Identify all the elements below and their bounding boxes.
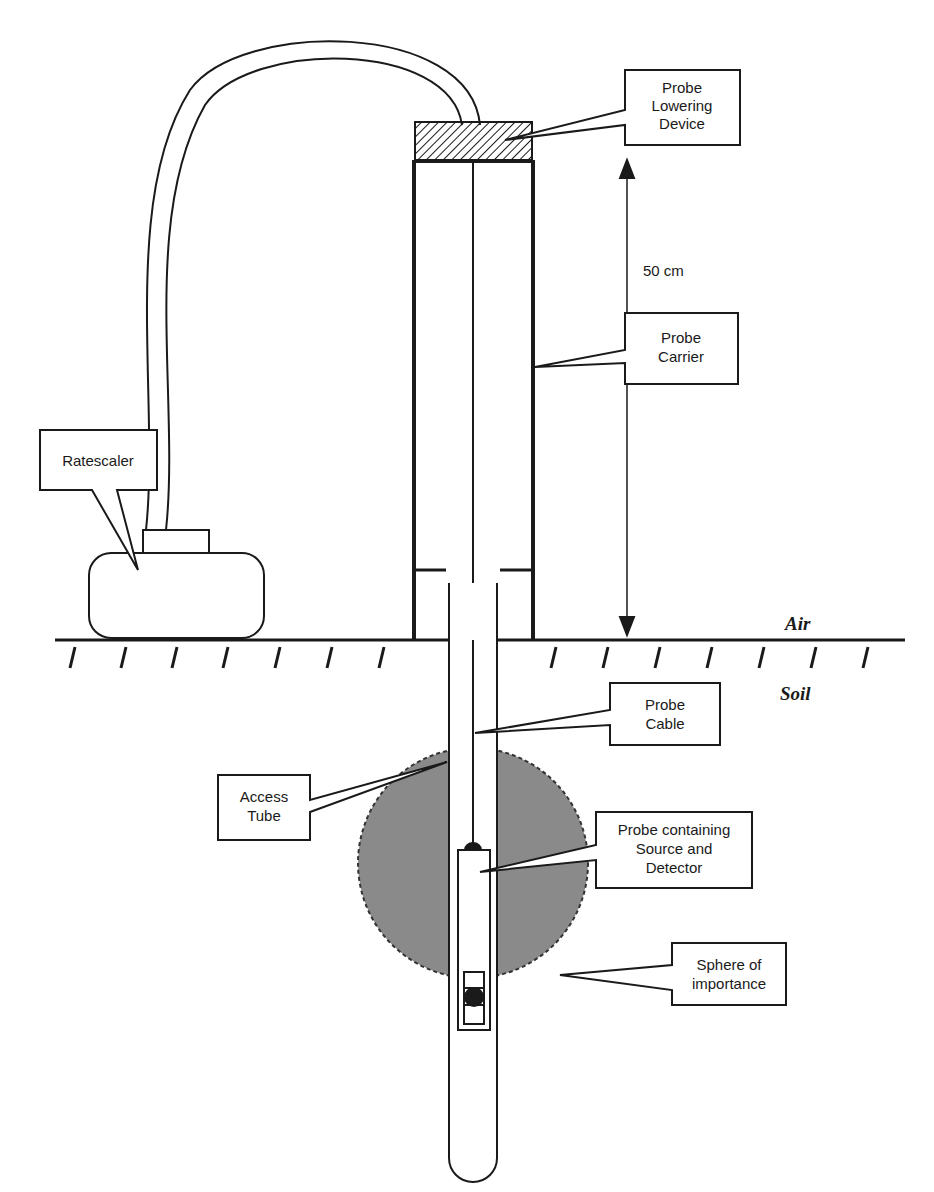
probe-lowering-device [415,122,532,160]
hose [146,41,480,530]
label-soil: Soil [780,683,811,704]
label-ratescaler: Ratescaler [62,452,134,469]
neutron-probe-diagram: ProbeLoweringDevice ProbeCarrier Ratesca… [0,0,934,1192]
label-air: Air [784,613,811,634]
label-dimension: 50 cm [643,262,684,279]
ratescaler-unit [89,530,264,638]
